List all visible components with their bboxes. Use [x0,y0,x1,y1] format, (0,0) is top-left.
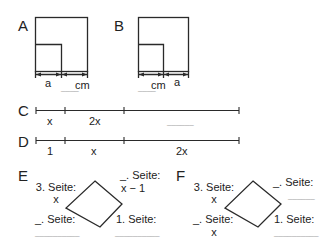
e-bottom-left-title: _. Seite: [35,214,75,225]
figure-label-c: C [18,103,29,118]
figure-label-a: A [18,18,28,33]
segment-c-1: x [47,116,53,127]
f-top-right-blank[interactable]: ______ [288,192,315,200]
figure-label-b: B [114,18,124,33]
f-bottom-left-title: _. Seite: [193,214,233,225]
e-bottom-left-blank[interactable]: __________ [35,229,80,237]
e-bottom-right-blank[interactable]: __________ [115,229,160,237]
square-a-inner [36,45,62,72]
f-bottom-right-title: 1. Seite: [274,214,314,225]
f-top-left-title: 3. Seite: [192,182,236,193]
segment-c-2: 2x [89,116,101,127]
number-line-c [36,107,239,114]
segment-d-2: x [91,146,97,157]
dimension-b-left: cm [151,80,166,91]
number-line-d [36,137,239,144]
f-top-right-title: _. Seite: [273,177,313,188]
f-top-left-value: x [192,194,236,205]
figure-label-f: F [176,168,185,183]
segment-c-3-blank[interactable]: ______ [167,118,194,126]
f-bottom-left-value: x [192,227,236,238]
e-top-left-title: 3. Seite: [34,182,78,193]
arrowheads [36,73,188,77]
e-top-right-title: _. Seite: [120,170,160,181]
e-bottom-right-title: 1. Seite: [116,214,156,225]
dimension-a-right: cm [75,80,90,91]
segment-d-1: 1 [47,146,53,157]
square-b-inner [139,45,164,72]
segment-d-3: 2x [176,146,188,157]
dimension-b-right: a [174,77,180,88]
dimension-a-left: a [45,78,51,89]
figure-label-e: E [18,168,28,183]
e-top-left-value: x [34,194,78,205]
figure-label-d: D [18,134,29,149]
f-bottom-right-blank[interactable]: __________ [274,229,319,237]
e-top-right-value: x − 1 [121,183,145,194]
